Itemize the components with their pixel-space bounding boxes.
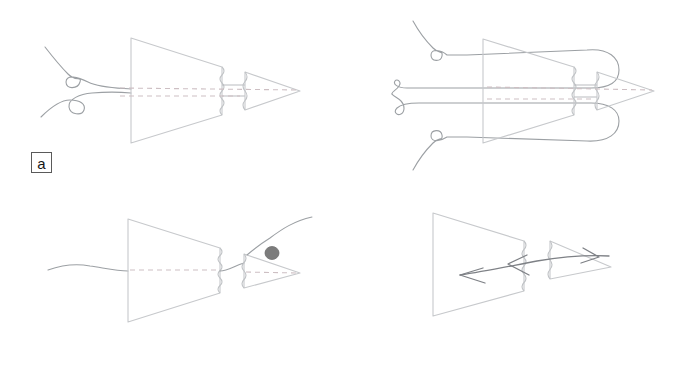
arrowhead-left-outer-d xyxy=(460,268,485,283)
filament-curve-c-left xyxy=(48,265,128,271)
nozzle-triangle-b xyxy=(597,72,654,110)
funnel-crimped-edge-b xyxy=(572,67,576,115)
filament-curve-c-neck xyxy=(220,263,244,271)
nozzle-triangle-a xyxy=(245,72,300,110)
panel-c-drawing xyxy=(0,191,347,383)
panel-a: a xyxy=(0,0,347,191)
funnel-outline-b xyxy=(483,39,574,143)
funnel-crimped-edge-a xyxy=(220,67,224,115)
filament-loop-b-upper xyxy=(392,21,619,94)
funnel-outline-a xyxy=(131,38,222,143)
filament-curve-a-lower xyxy=(41,92,131,117)
panel-a-drawing xyxy=(0,0,347,191)
funnel-neck-a xyxy=(222,85,245,96)
dashed-center-axis-c-2 xyxy=(246,272,296,273)
panel-d-drawing xyxy=(347,191,694,383)
filament-curve-c-right xyxy=(247,217,312,255)
filament-loop-b-lower xyxy=(392,94,619,170)
filament-curve-a-upper xyxy=(45,47,131,89)
panel-b: b xyxy=(347,0,694,191)
panel-b-drawing xyxy=(347,0,694,191)
panel-c: c xyxy=(0,191,347,383)
panel-d: d xyxy=(347,191,694,383)
nozzle-triangle-d xyxy=(550,241,611,279)
bead-blob-c xyxy=(265,247,279,260)
figure-root: a b xyxy=(0,0,694,383)
funnel-neck-b xyxy=(574,85,597,97)
dashed-center-axis-a xyxy=(120,88,298,90)
panel-label-a: a xyxy=(31,152,52,173)
